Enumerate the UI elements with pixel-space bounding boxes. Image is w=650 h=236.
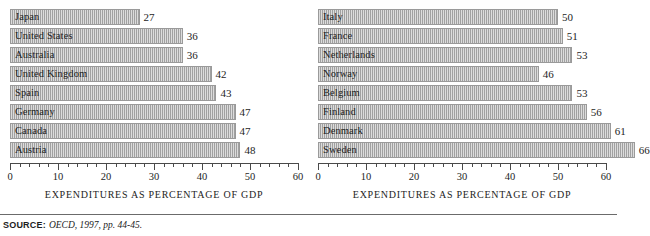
bar-category-label: Italy (319, 12, 343, 23)
chart-panel-right: Italy50France51Netherlands53Norway46Belg… (308, 0, 616, 205)
bar: Austria48 (10, 142, 240, 158)
axis-tick-minor (48, 163, 49, 167)
bar: Japan27 (10, 9, 140, 25)
axis-tick-minor (144, 163, 145, 167)
axis-tick-major (58, 163, 59, 170)
axis-tick-minor (221, 163, 222, 167)
bar-category-label: Canada (11, 126, 47, 137)
bar-value-label: 47 (240, 107, 251, 118)
axis-tick-major (202, 163, 203, 170)
axis-tick-minor (87, 163, 88, 167)
axis-tick-label: 10 (361, 171, 372, 182)
axis-tick-minor (260, 163, 261, 167)
axis-tick-minor (395, 163, 396, 167)
bar-category-label: United Kingdom (11, 69, 87, 80)
bar-row: Japan27 (10, 9, 298, 28)
bar-value-label: 36 (187, 50, 198, 61)
axis-tick-minor (356, 163, 357, 167)
bar-category-label: Netherlands (319, 50, 375, 61)
bar-value-label: 46 (543, 69, 554, 80)
source-label: SOURCE: (3, 220, 46, 230)
axis-tick-minor (328, 163, 329, 167)
bar: France51 (318, 28, 563, 44)
axis-tick-minor (68, 163, 69, 167)
axis-tick-minor (500, 163, 501, 167)
x-axis-title: EXPENDITURES AS PERCENTAGE OF GDP (318, 189, 606, 201)
bar-row: Sweden66 (318, 142, 606, 161)
bar: Belgium53 (318, 85, 572, 101)
bar-value-label: 53 (576, 50, 587, 61)
axis-tick-minor (529, 163, 530, 167)
axis-tick-minor (596, 163, 597, 167)
bar: United Kingdom42 (10, 66, 212, 82)
axis-tick-minor (452, 163, 453, 167)
bar-category-label: Belgium (319, 88, 360, 99)
axis-tick-minor (279, 163, 280, 167)
axis-tick-label: 20 (101, 171, 112, 182)
axis-tick-label: 50 (245, 171, 256, 182)
bar: Australia36 (10, 47, 183, 63)
axis-tick-label: 30 (149, 171, 160, 182)
bar-row: Finland56 (318, 104, 606, 123)
axis-tick-minor (20, 163, 21, 167)
bar: Denmark61 (318, 123, 611, 139)
bar-category-label: France (319, 31, 352, 42)
x-axis-left: 0102030405060 EXPENDITURES AS PERCENTAGE… (10, 163, 298, 205)
bar: Norway46 (318, 66, 539, 82)
x-axis-title: EXPENDITURES AS PERCENTAGE OF GDP (10, 189, 298, 201)
bar: Netherlands53 (318, 47, 572, 63)
bar: Sweden66 (318, 142, 635, 158)
axis-tick-label: 50 (553, 171, 564, 182)
axis-tick-minor (481, 163, 482, 167)
axis-tick-minor (269, 163, 270, 167)
axis-tick-minor (376, 163, 377, 167)
axis-tick-minor (404, 163, 405, 167)
bar-row: Spain43 (10, 85, 298, 104)
axis-tick-label: 0 (7, 171, 12, 182)
source-note: SOURCE:OECD, 1997, pp. 44-45. (3, 219, 142, 231)
axis-tick-minor (548, 163, 549, 167)
axis-tick-minor (288, 163, 289, 167)
chart-panels: Japan27United States36Australia36United … (0, 0, 617, 205)
bar: Canada47 (10, 123, 236, 139)
axis-tick-minor (173, 163, 174, 167)
axis-tick-label: 40 (505, 171, 516, 182)
bar-category-label: Australia (11, 50, 54, 61)
bar-row: Germany47 (10, 104, 298, 123)
axis-tick-major (366, 163, 367, 170)
axis-tick-minor (212, 163, 213, 167)
axis-tick-minor (385, 163, 386, 167)
axis-tick-minor (77, 163, 78, 167)
axis-tick-minor (231, 163, 232, 167)
axis-tick-minor (424, 163, 425, 167)
axis-tick-major (462, 163, 463, 170)
axis-tick-minor (337, 163, 338, 167)
bar-category-label: Austria (11, 145, 47, 156)
bar-row: Netherlands53 (318, 47, 606, 66)
bar: Finland56 (318, 104, 587, 120)
axis-tick-label: 0 (315, 171, 320, 182)
axis-tick-minor (491, 163, 492, 167)
axis-tick-minor (587, 163, 588, 167)
bar-value-label: 27 (144, 12, 155, 23)
chart-panel-left: Japan27United States36Australia36United … (0, 0, 308, 205)
bar-value-label: 51 (567, 31, 578, 42)
axis-tick-minor (539, 163, 540, 167)
axis-tick-minor (125, 163, 126, 167)
axis-tick-minor (240, 163, 241, 167)
bar-value-label: 47 (240, 126, 251, 137)
axis-tick-label: 20 (409, 171, 420, 182)
bar-category-label: Finland (319, 107, 356, 118)
source-citation: OECD, 1997, pp. 44-45. (49, 220, 142, 230)
bar-row: Italy50 (318, 9, 606, 28)
axis-tick-major (510, 163, 511, 170)
bar-value-label: 53 (576, 88, 587, 99)
bar-row: United Kingdom42 (10, 66, 298, 85)
axis-tick-minor (520, 163, 521, 167)
bar-category-label: Sweden (319, 145, 357, 156)
bar-category-label: Norway (319, 69, 357, 80)
bars-right: Italy50France51Netherlands53Norway46Belg… (318, 9, 606, 161)
axis-tick-minor (568, 163, 569, 167)
axis-tick-major (606, 163, 607, 170)
bar-value-label: 43 (220, 88, 231, 99)
